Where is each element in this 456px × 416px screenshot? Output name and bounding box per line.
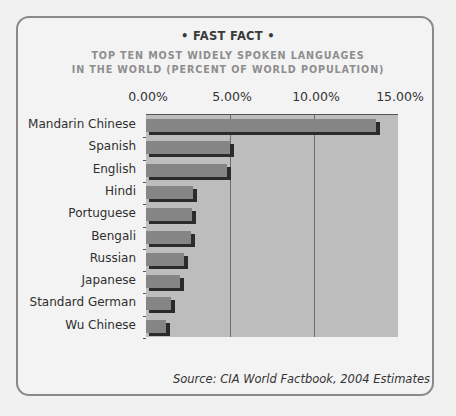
- y-tick: [143, 249, 146, 250]
- y-tick: [143, 271, 146, 272]
- bar-mandarin-chinese: [146, 119, 376, 132]
- category-label: Portuguese: [68, 206, 136, 220]
- category-label: Spanish: [89, 139, 136, 153]
- category-label: Hindi: [105, 184, 136, 198]
- bar-hindi: [146, 186, 193, 199]
- bar-bengali: [146, 231, 191, 244]
- y-tick: [143, 316, 146, 317]
- category-label: Japanese: [82, 273, 137, 287]
- y-tick: [143, 160, 146, 161]
- category-label: Russian: [90, 251, 136, 265]
- category-label: Mandarin Chinese: [28, 117, 136, 131]
- y-tick: [143, 338, 146, 339]
- category-label: English: [93, 162, 136, 176]
- y-tick: [143, 227, 146, 228]
- y-tick: [143, 182, 146, 183]
- bar-spanish: [146, 141, 230, 154]
- y-tick: [143, 204, 146, 205]
- plot-area: [146, 114, 398, 337]
- fast-fact-kicker: • FAST FACT •: [0, 29, 456, 43]
- y-tick: [143, 137, 146, 138]
- bar-portuguese: [146, 208, 192, 221]
- x-tick-5: 5.00%: [212, 89, 252, 104]
- chart-title: TOP TEN MOST WIDELY SPOKEN LANGUAGES IN …: [0, 49, 456, 77]
- x-tick-10: 10.00%: [292, 89, 340, 104]
- x-tick-15: 15.00%: [376, 89, 424, 104]
- chart-title-line-1: TOP TEN MOST WIDELY SPOKEN LANGUAGES: [0, 49, 456, 63]
- y-tick: [143, 293, 146, 294]
- bar-english: [146, 164, 227, 177]
- x-tick-0: 0.00%: [128, 89, 168, 104]
- category-label: Wu Chinese: [65, 318, 136, 332]
- source-note: Source: CIA World Factbook, 2004 Estimat…: [173, 372, 430, 386]
- bar-japanese: [146, 275, 180, 288]
- category-label: Bengali: [91, 229, 136, 243]
- bar-russian: [146, 253, 184, 266]
- bar-wu-chinese: [146, 320, 166, 333]
- category-label: Standard German: [30, 295, 136, 309]
- bar-standard-german: [146, 297, 171, 310]
- chart-title-line-2: IN THE WORLD (PERCENT OF WORLD POPULATIO…: [0, 63, 456, 77]
- gridline-10: [314, 115, 315, 337]
